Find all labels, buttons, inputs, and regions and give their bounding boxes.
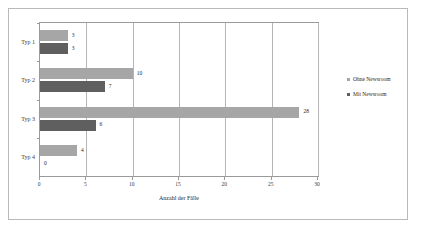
x-axis-tick-label: 0 (38, 181, 41, 187)
bar-row[interactable]: 10 (40, 68, 142, 79)
bar-value-label: 28 (303, 109, 309, 115)
bar-value-label: 3 (72, 33, 75, 39)
x-axis-tick (271, 177, 272, 180)
chart-legend: Ohne NewsroomMit Newsroom (347, 77, 407, 106)
y-axis-category-label: Typ 2 (21, 77, 35, 83)
bar-row[interactable]: 7 (40, 81, 112, 92)
y-axis-tick (37, 138, 40, 139)
bar-row[interactable]: 4 (40, 145, 84, 156)
bar-row[interactable]: 6 (40, 120, 102, 131)
bar[interactable] (40, 68, 133, 79)
plot-area: Typ 133Typ 2107Typ 3286Typ 440 (39, 22, 319, 177)
x-axis-tick-label: 20 (222, 181, 228, 187)
legend-swatch-icon (347, 78, 350, 81)
bar-value-label: 0 (44, 161, 47, 167)
x-axis-tick-label: 15 (175, 181, 181, 187)
y-axis-category-label: Typ 1 (21, 39, 35, 45)
x-axis-tick (317, 177, 318, 180)
y-axis-category-label: Typ 4 (21, 154, 35, 160)
x-axis-tick-label: 10 (129, 181, 135, 187)
bar[interactable] (40, 30, 68, 41)
bar[interactable] (40, 107, 299, 118)
legend-label: Mit Newsroom (353, 92, 386, 98)
bar-group: Typ 2107 (40, 61, 318, 99)
bar-row[interactable]: 3 (40, 30, 75, 41)
y-axis-tick (37, 61, 40, 62)
y-axis-category-label: Typ 3 (21, 116, 35, 122)
legend-label: Ohne Newsroom (353, 77, 390, 83)
x-axis-tick-label: 30 (314, 181, 320, 187)
y-axis-tick (37, 23, 40, 24)
bar[interactable] (40, 81, 105, 92)
x-axis-tick (39, 177, 40, 180)
x-axis-tick (85, 177, 86, 180)
bar-row[interactable]: 0 (40, 158, 47, 169)
chart-container: Typ 133Typ 2107Typ 3286Typ 440 051015202… (8, 8, 408, 220)
bar-value-label: 3 (72, 46, 75, 52)
bar-row[interactable]: 28 (40, 107, 309, 118)
bar-value-label: 10 (137, 71, 143, 77)
x-axis-tick (178, 177, 179, 180)
gridline (318, 23, 319, 176)
x-axis-tick (224, 177, 225, 180)
bar-value-label: 7 (109, 84, 112, 90)
bar-group: Typ 133 (40, 23, 318, 61)
x-axis-tick-label: 5 (84, 181, 87, 187)
bar-row[interactable]: 3 (40, 43, 75, 54)
bar[interactable] (40, 120, 96, 131)
y-axis-tick (37, 100, 40, 101)
bar-group: Typ 440 (40, 138, 318, 176)
bar[interactable] (40, 145, 77, 156)
bar[interactable] (40, 43, 68, 54)
bar-value-label: 6 (100, 122, 103, 128)
x-axis: 051015202530 (39, 177, 319, 191)
legend-item[interactable]: Mit Newsroom (347, 92, 407, 98)
legend-item[interactable]: Ohne Newsroom (347, 77, 407, 83)
bar-group: Typ 3286 (40, 100, 318, 138)
legend-swatch-icon (347, 93, 350, 96)
bar-value-label: 4 (81, 148, 84, 154)
x-axis-title: Anzahl der Fälle (39, 195, 319, 201)
x-axis-tick-label: 25 (268, 181, 274, 187)
x-axis-tick (132, 177, 133, 180)
